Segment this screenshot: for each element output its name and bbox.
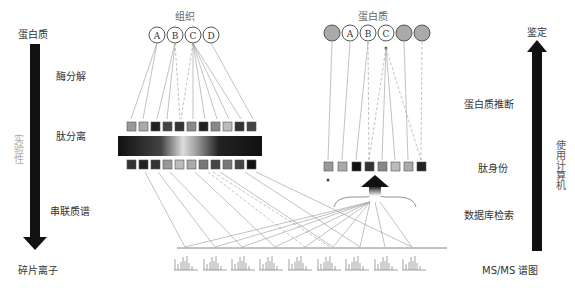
peptide-id-row [324, 162, 426, 171]
tissue-circle-a: A [153, 31, 161, 41]
unmatched-peptide-dot [327, 179, 330, 182]
experimental-arrow-icon [23, 44, 47, 250]
peptide-row-bottom [127, 160, 256, 169]
computational-arrow-icon [527, 40, 547, 251]
gel-band [118, 136, 262, 156]
msms-spectra [174, 256, 426, 270]
tissue-circle-d: D [207, 31, 214, 41]
protein-circles [324, 25, 430, 41]
protein-circle-b: B [365, 29, 372, 39]
diagram-canvas: A B C D [0, 0, 575, 288]
tissue-circle-c: C [190, 31, 197, 41]
database-match-arrow-icon [361, 175, 389, 196]
peptide-row-top [127, 122, 256, 131]
protein-circle-c: C [383, 29, 390, 39]
tissue-circle-b: B [172, 31, 179, 41]
protein-circle-a: A [346, 29, 354, 39]
